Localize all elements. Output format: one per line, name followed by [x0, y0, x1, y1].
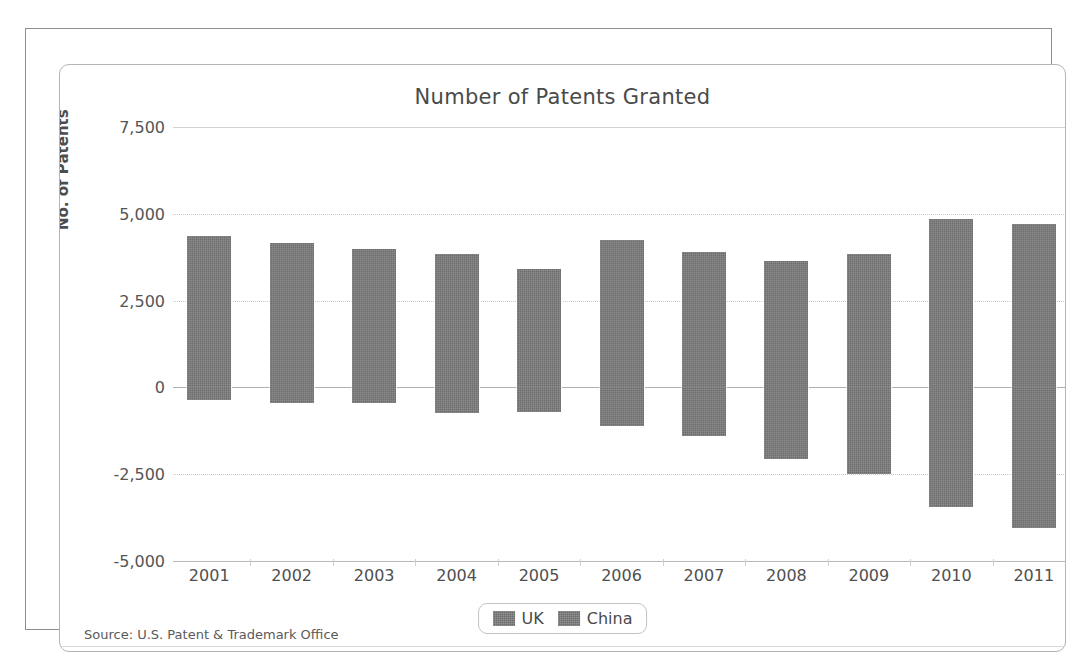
- x-tick-label-2010: 2010: [931, 566, 972, 585]
- y-axis-title: No. of Patents: [59, 64, 72, 230]
- gridline-5000: [173, 214, 1066, 215]
- x-tick-label-2005: 2005: [519, 566, 560, 585]
- bar-uk-2001: [187, 236, 231, 387]
- x-tick-label-2002: 2002: [271, 566, 312, 585]
- x-tick-mark: [580, 559, 581, 566]
- x-tick-mark: [993, 559, 994, 566]
- bar-uk-2005: [517, 269, 561, 387]
- plot-area: [173, 127, 1066, 561]
- legend-item-uk[interactable]: UK: [493, 609, 544, 628]
- bar-uk-2008: [764, 261, 808, 388]
- bar-china-2001: [187, 387, 231, 399]
- x-tick-label-2011: 2011: [1013, 566, 1054, 585]
- x-tick-mark: [828, 559, 829, 566]
- bar-uk-2004: [435, 254, 479, 388]
- bar-china-2009: [847, 387, 891, 474]
- legend-label: China: [587, 609, 633, 628]
- legend-item-china[interactable]: China: [558, 609, 633, 628]
- x-tick-label-2003: 2003: [354, 566, 395, 585]
- x-tick-mark: [910, 559, 911, 566]
- source-note: Source: U.S. Patent & Trademark Office: [84, 627, 339, 642]
- y-tick-label: -5,000: [113, 552, 165, 571]
- chart-title: Number of Patents Granted: [60, 85, 1065, 109]
- bar-uk-2006: [600, 240, 644, 388]
- y-tick-label: 7,500: [119, 118, 165, 137]
- bar-china-2005: [517, 387, 561, 411]
- chart-inner-frame: Number of Patents Granted No. of Patents…: [59, 64, 1066, 652]
- chart-outer-frame: Number of Patents Granted No. of Patents…: [25, 28, 1052, 630]
- bar-china-2007: [682, 387, 726, 436]
- x-tick-label-2008: 2008: [766, 566, 807, 585]
- y-tick-label: -2,500: [113, 465, 165, 484]
- x-tick-mark: [663, 559, 664, 566]
- y-axis-tick-labels: 7,5005,0002,5000-2,500-5,000: [93, 127, 165, 561]
- bar-uk-2003: [352, 249, 396, 388]
- y-tick-label: 0: [155, 378, 165, 397]
- bar-china-2004: [435, 387, 479, 413]
- y-tick-label: 2,500: [119, 291, 165, 310]
- bar-uk-2002: [270, 243, 314, 387]
- x-tick-mark: [745, 559, 746, 566]
- x-tick-label-2009: 2009: [849, 566, 890, 585]
- bar-china-2010: [929, 387, 973, 507]
- legend-swatch-icon: [493, 611, 515, 626]
- x-tick-mark: [333, 559, 334, 566]
- bar-uk-2010: [929, 219, 973, 387]
- x-axis-line: [173, 561, 1066, 562]
- x-tick-mark: [498, 559, 499, 566]
- chart-legend: UKChina: [478, 603, 648, 634]
- bar-china-2008: [764, 387, 808, 458]
- bar-uk-2007: [682, 252, 726, 387]
- x-axis-tick-labels: 2001200220032004200520062007200820092010…: [173, 566, 1066, 594]
- x-tick-label-2001: 2001: [189, 566, 230, 585]
- gridline-7500: [173, 127, 1066, 128]
- bar-china-2003: [352, 387, 396, 403]
- bar-uk-2011: [1012, 224, 1056, 387]
- legend-label: UK: [522, 609, 544, 628]
- x-tick-mark: [415, 559, 416, 566]
- bar-china-2011: [1012, 387, 1056, 528]
- y-tick-label: 5,000: [119, 204, 165, 223]
- bar-uk-2009: [847, 254, 891, 388]
- source-divider: [61, 646, 1064, 647]
- x-tick-label-2004: 2004: [436, 566, 477, 585]
- x-tick-label-2007: 2007: [684, 566, 725, 585]
- x-tick-label-2006: 2006: [601, 566, 642, 585]
- x-tick-mark: [250, 559, 251, 566]
- legend-swatch-icon: [558, 611, 580, 626]
- bar-china-2002: [270, 387, 314, 403]
- bar-china-2006: [600, 387, 644, 425]
